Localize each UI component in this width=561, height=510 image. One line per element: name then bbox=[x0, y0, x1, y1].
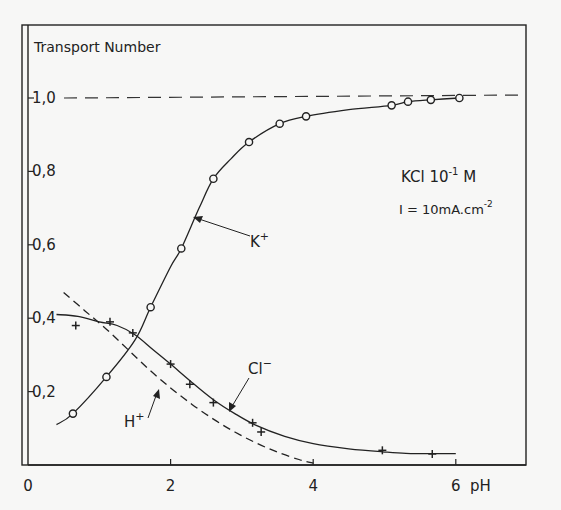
k-plus-label-group: K+ bbox=[193, 216, 269, 251]
h-plus-arrowhead bbox=[153, 389, 160, 399]
x-tick-label: 6 bbox=[451, 477, 461, 495]
data-point-kplus bbox=[103, 373, 110, 380]
series-curve-clminus bbox=[57, 315, 456, 454]
y-ticks: 0,20,40,60,81,0 bbox=[28, 89, 56, 401]
x-axis-title: pH bbox=[470, 477, 491, 495]
data-point-clminus bbox=[428, 450, 436, 458]
x-tick-label: 0 bbox=[23, 477, 33, 495]
data-point-kplus bbox=[69, 410, 76, 417]
series-curve-hplus bbox=[64, 293, 314, 464]
chart-canvas: Transport Number pH 0246 0,20,40,60,81,0… bbox=[0, 0, 561, 510]
data-point-clminus bbox=[209, 399, 217, 407]
y-axis-title: Transport Number bbox=[33, 39, 161, 55]
k-plus-arrow bbox=[196, 218, 250, 236]
data-point-kplus bbox=[178, 245, 185, 252]
condition-concentration: KCl 10-1 M bbox=[401, 166, 476, 186]
cl-minus-label-group: Cl− bbox=[229, 357, 272, 412]
plot-frame bbox=[22, 25, 526, 465]
data-point-kplus bbox=[276, 120, 283, 127]
x-tick-label: 4 bbox=[308, 477, 318, 495]
data-point-kplus bbox=[302, 113, 309, 120]
h-plus-label-group: H+ bbox=[124, 389, 160, 431]
markers bbox=[69, 94, 463, 458]
data-point-kplus bbox=[456, 94, 463, 101]
condition-current-density: I = 10mA.cm-2 bbox=[399, 199, 493, 217]
data-point-kplus bbox=[245, 138, 252, 145]
y-tick-label: 1,0 bbox=[32, 89, 56, 107]
data-point-clminus bbox=[186, 380, 194, 388]
x-tick-label: 2 bbox=[166, 477, 176, 495]
h-plus-label: H+ bbox=[124, 410, 145, 431]
data-point-kplus bbox=[427, 96, 434, 103]
data-point-kplus bbox=[388, 102, 395, 109]
y-tick-label: 0,6 bbox=[32, 236, 56, 254]
data-point-clminus bbox=[378, 446, 386, 454]
data-point-kplus bbox=[404, 98, 411, 105]
data-point-kplus bbox=[147, 304, 154, 311]
data-point-kplus bbox=[210, 175, 217, 182]
y-tick-label: 0,4 bbox=[32, 309, 56, 327]
y-tick-label: 0,8 bbox=[32, 162, 56, 180]
data-point-clminus bbox=[72, 322, 80, 330]
k-plus-label: K+ bbox=[250, 230, 269, 251]
cl-minus-arrowhead bbox=[229, 402, 236, 412]
cl-minus-label: Cl− bbox=[248, 357, 272, 378]
y-tick-label: 0,2 bbox=[32, 383, 56, 401]
cl-minus-arrow bbox=[231, 378, 249, 408]
curves bbox=[57, 98, 460, 463]
